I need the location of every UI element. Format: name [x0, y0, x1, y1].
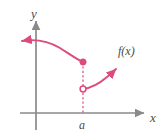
y-axis-label: y	[29, 6, 37, 21]
x-tick-label-a: a	[79, 118, 85, 132]
graph-canvas: y x f(x) a	[0, 0, 162, 136]
open-endpoint-marker	[80, 86, 86, 92]
closed-endpoint-marker	[80, 59, 86, 65]
left-branch-curve	[22, 40, 83, 62]
right-branch-curve	[83, 69, 116, 89]
x-axis-label: x	[149, 110, 156, 125]
function-label: f(x)	[118, 44, 135, 58]
graph-figure: y x f(x) a	[0, 0, 162, 136]
